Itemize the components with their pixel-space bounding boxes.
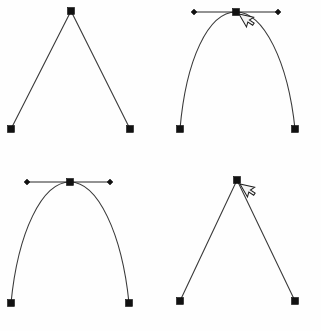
- panel-smooth-node-with-cursor: [160, 0, 320, 165]
- anchor-point-right[interactable]: [126, 300, 133, 307]
- anchor-point-left[interactable]: [8, 126, 15, 133]
- vector-path-corner: [11, 11, 130, 129]
- anchor-point-left[interactable]: [177, 298, 184, 305]
- anchor-point-right[interactable]: [292, 298, 299, 305]
- handle-endpoint-right-icon[interactable]: [107, 179, 113, 185]
- handle-endpoint-right-icon[interactable]: [275, 9, 281, 15]
- anchor-point-apex[interactable]: [68, 8, 75, 15]
- anchor-point-apex[interactable]: [234, 177, 241, 184]
- anchor-point-right[interactable]: [292, 126, 299, 133]
- handle-endpoint-left-icon[interactable]: [191, 9, 197, 15]
- panel-smooth-node-result: [0, 165, 160, 330]
- anchor-point-apex[interactable]: [233, 9, 240, 16]
- illustration-canvas: Converting corner nodes to smooth nodes …: [0, 0, 321, 331]
- anchor-point-left[interactable]: [8, 300, 15, 307]
- mouse-cursor-icon: [240, 179, 258, 199]
- vector-path-smooth: [180, 12, 295, 129]
- anchor-point-left[interactable]: [177, 126, 184, 133]
- handle-endpoint-left-icon[interactable]: [24, 179, 30, 185]
- anchor-point-right[interactable]: [127, 126, 134, 133]
- vector-path-smooth: [11, 182, 129, 303]
- anchor-point-apex[interactable]: [67, 179, 74, 186]
- panel-corner-node-with-cursor: [160, 165, 320, 330]
- panel-corner-node-before: [0, 0, 160, 165]
- vector-path-corner: [180, 180, 295, 301]
